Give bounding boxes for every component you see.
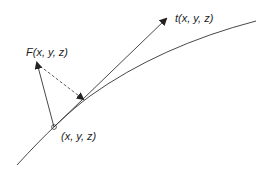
curve [17,21,256,165]
point-label: (x, y, z) [61,130,97,142]
tangent-label: t(x, y, z) [175,12,214,24]
force-label: F(x, y, z) [26,46,68,58]
tangent-force-diagram: F(x, y, z) t(x, y, z) (x, y, z) [0,0,269,175]
force-vector-arrow [37,63,54,127]
projection-dashed-arrow [40,66,83,99]
tangent-vector-arrow [54,19,166,127]
